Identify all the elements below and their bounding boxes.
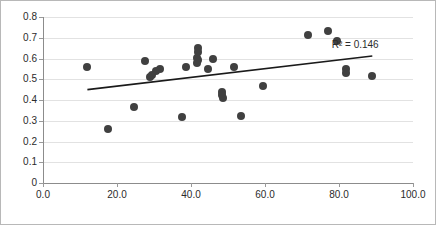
scatter-point	[182, 63, 190, 71]
gridline-horizontal	[43, 17, 413, 18]
x-tick-label: 0.0	[13, 190, 73, 200]
y-tick	[39, 100, 43, 101]
y-axis-line	[43, 17, 44, 184]
gridline-horizontal	[43, 162, 413, 163]
scatter-point	[304, 31, 312, 39]
r-squared-annotation: R² = 0.146	[332, 40, 379, 50]
scatter-point	[219, 94, 227, 102]
y-tick	[39, 142, 43, 143]
y-tick-label: 0.8	[1, 12, 37, 22]
y-tick-label: 0.2	[1, 137, 37, 147]
x-tick	[117, 183, 118, 187]
y-tick	[39, 38, 43, 39]
x-tick-label: 60.0	[235, 190, 295, 200]
gridline-horizontal	[43, 142, 413, 143]
gridline-horizontal	[43, 100, 413, 101]
x-tick-label: 40.0	[161, 190, 221, 200]
y-tick	[39, 121, 43, 122]
x-axis-line	[43, 183, 414, 184]
scatter-point	[83, 63, 91, 71]
y-tick	[39, 59, 43, 60]
x-tick	[339, 183, 340, 187]
y-tick-label: 0.5	[1, 74, 37, 84]
gridline-horizontal	[43, 59, 413, 60]
x-tick-label: 80.0	[309, 190, 369, 200]
x-tick	[43, 183, 44, 187]
gridline-horizontal	[43, 79, 413, 80]
y-tick-label: 0.6	[1, 54, 37, 64]
scatter-point	[342, 69, 350, 77]
scatter-point	[209, 55, 217, 63]
y-tick-label: 0.3	[1, 116, 37, 126]
y-tick	[39, 162, 43, 163]
y-tick-label: 0.7	[1, 33, 37, 43]
x-tick-label: 100.0	[383, 190, 436, 200]
scatter-point	[193, 59, 201, 67]
y-tick-label: 0.1	[1, 157, 37, 167]
scatter-point	[204, 65, 212, 73]
scatter-point	[156, 65, 164, 73]
x-tick	[191, 183, 192, 187]
scatter-point	[230, 63, 238, 71]
y-tick	[39, 79, 43, 80]
scatter-point	[237, 112, 245, 120]
gridline-horizontal	[43, 121, 413, 122]
chart-frame: 00.10.20.30.40.50.60.70.8 0.020.040.060.…	[0, 0, 436, 225]
x-tick	[265, 183, 266, 187]
x-tick-label: 20.0	[87, 190, 147, 200]
scatter-point	[104, 125, 112, 133]
scatter-point	[178, 113, 186, 121]
x-tick	[413, 183, 414, 187]
scatter-point	[324, 27, 332, 35]
trendline-path	[87, 56, 372, 90]
y-tick-label: 0	[1, 178, 37, 188]
y-tick-label: 0.4	[1, 95, 37, 105]
scatter-point	[130, 103, 138, 111]
scatter-point	[259, 82, 267, 90]
scatter-point	[141, 57, 149, 65]
y-tick	[39, 17, 43, 18]
